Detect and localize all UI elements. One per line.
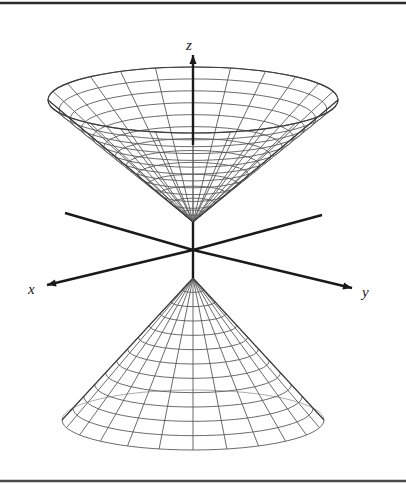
y-axis-label: y bbox=[362, 285, 369, 300]
z-axis-label: z bbox=[186, 38, 192, 53]
figure-container: z x y bbox=[0, 0, 406, 485]
figure-background bbox=[0, 0, 406, 485]
double-cone-diagram bbox=[0, 0, 406, 485]
x-axis-label: x bbox=[28, 282, 35, 297]
